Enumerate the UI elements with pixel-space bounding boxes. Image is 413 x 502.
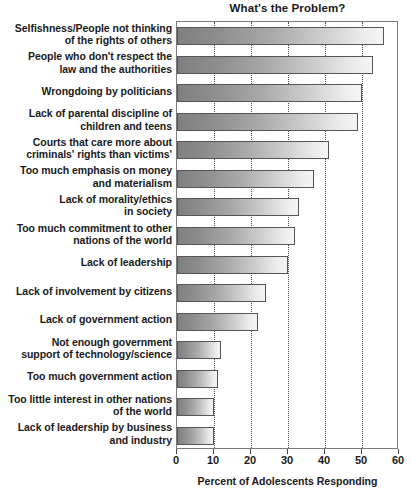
x-tick-label: 40: [309, 454, 339, 466]
x-axis-title: Percent of Adolescents Responding: [177, 475, 398, 487]
bar: [177, 113, 358, 131]
category-label-line: Too much government action: [0, 370, 172, 383]
bar: [177, 27, 384, 45]
category-label-line: Lack of involvement by citizens: [0, 285, 172, 298]
category-label-line: of the world: [0, 405, 172, 418]
category-label: Too much emphasis on moneyand materialis…: [0, 164, 172, 189]
x-tick-label: 0: [161, 454, 191, 466]
category-label: Lack of parental discipline ofchildren a…: [0, 107, 172, 132]
category-label-line: law and the authorities: [0, 63, 172, 76]
bar-row: [177, 56, 397, 74]
category-label: Lack of leadership by businessand indust…: [0, 421, 172, 446]
bar-row: [177, 284, 397, 302]
bar: [177, 313, 258, 331]
bar: [177, 256, 288, 274]
category-label-line: Lack of leadership: [0, 256, 172, 269]
category-label: Selfishness/People not thinkingof the ri…: [0, 22, 172, 47]
category-label-line: support of technology/science: [0, 348, 172, 361]
bar-row: [177, 256, 397, 274]
bar: [177, 341, 221, 359]
category-axis-labels: Selfishness/People not thinkingof the ri…: [0, 21, 172, 449]
category-label: People who don't respect thelaw and the …: [0, 50, 172, 75]
bar: [177, 398, 214, 416]
category-label: Wrongdoing by politicians: [0, 85, 172, 98]
bar-series: [177, 22, 397, 448]
bar: [177, 56, 373, 74]
x-tick-label: 30: [272, 454, 302, 466]
plot-area: [176, 21, 398, 449]
category-label-line: Too little interest in other nations: [0, 393, 172, 406]
category-label-line: Selfishness/People not thinking: [0, 22, 172, 35]
bar-row: [177, 27, 397, 45]
category-label-line: children and teens: [0, 120, 172, 133]
category-label: Courts that care more aboutcriminals' ri…: [0, 136, 172, 161]
bar: [177, 370, 218, 388]
x-tick-label: 10: [198, 454, 228, 466]
x-tick-label: 60: [383, 454, 413, 466]
chart-title: What's the Problem?: [177, 2, 398, 14]
category-label-line: Lack of parental discipline of: [0, 107, 172, 120]
category-label-line: Too much emphasis on money: [0, 164, 172, 177]
bar-row: [177, 170, 397, 188]
x-axis: 0102030405060: [176, 449, 398, 475]
bar: [177, 427, 214, 445]
bar-row: [177, 370, 397, 388]
category-label-line: Not enough government: [0, 336, 172, 349]
category-label-line: and industry: [0, 434, 172, 447]
bar: [177, 227, 295, 245]
category-label-line: Lack of morality/ethics: [0, 193, 172, 206]
category-label-line: and materialism: [0, 177, 172, 190]
category-label: Not enough governmentsupport of technolo…: [0, 336, 172, 361]
category-label: Lack of government action: [0, 313, 172, 326]
category-label: Lack of involvement by citizens: [0, 285, 172, 298]
bar-row: [177, 84, 397, 102]
bar-row: [177, 341, 397, 359]
category-label-line: criminals' rights than victims': [0, 148, 172, 161]
category-label-line: Too much commitment to other: [0, 222, 172, 235]
category-label: Too much commitment to othernations of t…: [0, 222, 172, 247]
bar-row: [177, 113, 397, 131]
x-tick-label: 50: [346, 454, 376, 466]
bar-row: [177, 198, 397, 216]
category-label-line: Lack of government action: [0, 313, 172, 326]
category-label-line: Lack of leadership by business: [0, 421, 172, 434]
category-label: Lack of morality/ethicsin society: [0, 193, 172, 218]
category-label: Too much government action: [0, 370, 172, 383]
bar: [177, 141, 329, 159]
category-label-line: People who don't respect the: [0, 50, 172, 63]
bar-row: [177, 227, 397, 245]
bar: [177, 84, 362, 102]
category-label-line: Courts that care more about: [0, 136, 172, 149]
x-tick-label: 20: [235, 454, 265, 466]
category-label-line: in society: [0, 205, 172, 218]
bar-row: [177, 313, 397, 331]
bar: [177, 198, 299, 216]
category-label: Lack of leadership: [0, 256, 172, 269]
bar: [177, 284, 266, 302]
bar-row: [177, 427, 397, 445]
bar-row: [177, 141, 397, 159]
category-label-line: nations of the world: [0, 234, 172, 247]
bar: [177, 170, 314, 188]
category-label-line: Wrongdoing by politicians: [0, 85, 172, 98]
category-label-line: of the rights of others: [0, 34, 172, 47]
chart-container: What's the Problem? Selfishness/People n…: [0, 0, 413, 502]
bar-row: [177, 398, 397, 416]
category-label: Too little interest in other nationsof t…: [0, 393, 172, 418]
